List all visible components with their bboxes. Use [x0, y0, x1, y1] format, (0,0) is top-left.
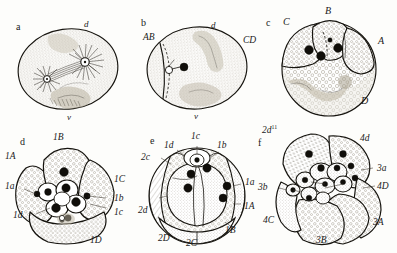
panel-a-axis-ventral: v [67, 113, 71, 122]
panel-d-label-1A: 1A [5, 152, 16, 162]
panel-c: c C B A D [265, 0, 397, 128]
panel-f-label-4D: 4D [377, 182, 389, 192]
panel-e-label-1d: 1d [164, 141, 174, 151]
panel-f-label-2d11: 2d11 [262, 125, 277, 136]
panel-c-label-a: A [378, 36, 384, 46]
panel-e-label-2d: 2d [138, 206, 148, 216]
panel-d-label-1d: 1d [13, 211, 23, 221]
panel-letter-a: a [16, 22, 20, 32]
panel-c-label-b: B [325, 6, 331, 16]
panel-f-label-2d11-base: 2d [262, 125, 272, 135]
panel-d-label-1D: 1D [90, 236, 102, 246]
panel-letter-c: c [266, 18, 270, 28]
panel-d-label-1B: 1B [53, 133, 64, 143]
panel-b-label-cd: CD [243, 36, 256, 46]
panel-b-label-ab: AB [143, 33, 155, 43]
panel-c-label-d: D [361, 96, 368, 106]
panel-letter-f: f [258, 138, 261, 148]
panel-d-label-1c: 1c [114, 208, 123, 218]
panel-e-label-2D: 2D [158, 234, 170, 244]
panel-d: d 1B 1A 1a 1d 1C 1b 1c 1D [0, 126, 135, 253]
panel-b-axis-ventral: v [194, 112, 198, 121]
panel-b-axis-dorsal: d [211, 21, 216, 30]
panel-d-label-1b: 1b [114, 194, 124, 204]
panel-a: a d v [0, 0, 135, 128]
panel-letter-d: d [20, 137, 25, 147]
panel-e-label-1B: 1B [225, 226, 236, 236]
panel-f-label-3B: 3B [316, 236, 327, 246]
panel-e-label-1A: 1A [244, 202, 255, 212]
panel-letter-e: e [150, 136, 154, 146]
panel-f-label-3a: 3a [377, 164, 387, 174]
panel-a-axis-dorsal: d [84, 20, 89, 29]
panel-f-label-4d: 4d [360, 134, 370, 144]
panel-a-drawing [0, 0, 135, 128]
panel-letter-b: b [141, 18, 146, 28]
panel-f: f 2d11 4d 3a 4D 3A 3B 4C 3b [265, 126, 397, 253]
panel-e-label-1a: 1a [245, 178, 255, 188]
panel-b: b AB CD d v [133, 0, 267, 128]
panel-e-label-2C: 2C [186, 239, 197, 249]
panel-d-label-1C: 1C [114, 175, 125, 185]
panel-e: e 1c 1d 1b 2c 2d 2D 2C 1B 1A 1a [133, 126, 267, 253]
figure-plate: a d v [0, 0, 397, 253]
panel-f-label-4C: 4C [263, 216, 274, 226]
panel-e-label-1c: 1c [191, 132, 200, 142]
panel-e-label-1b: 1b [217, 141, 227, 151]
panel-b-drawing [133, 0, 267, 128]
panel-f-label-2d11-sup: 11 [272, 124, 278, 130]
panel-c-label-c: C [283, 17, 290, 27]
panel-f-label-3b: 3b [258, 183, 268, 193]
panel-f-label-3A: 3A [373, 218, 384, 228]
panel-e-label-2c: 2c [141, 153, 150, 163]
panel-d-label-1a: 1a [5, 182, 15, 192]
